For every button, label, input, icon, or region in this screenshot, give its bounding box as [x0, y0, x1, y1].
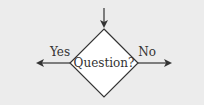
- yes-label: Yes: [49, 45, 70, 59]
- flowchart-decision: Question? Yes No: [0, 0, 204, 105]
- no-label: No: [138, 45, 156, 59]
- decision-label: Question?: [74, 56, 135, 70]
